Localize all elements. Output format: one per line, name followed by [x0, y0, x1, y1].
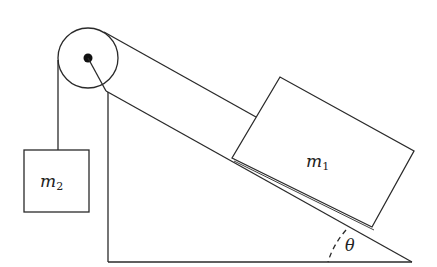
m2-label: m2 [40, 171, 63, 193]
theta-label: θ [345, 236, 355, 255]
block-m2: m2 [24, 150, 89, 212]
angle-marker: θ [328, 230, 355, 262]
incline-pulley-diagram: m1 m2 θ [0, 0, 437, 267]
rope-to-m1 [104, 32, 256, 117]
incline-triangle [106, 91, 412, 262]
pulley [58, 28, 118, 91]
incline-hypotenuse [106, 91, 412, 262]
block-m1: m1 [232, 77, 414, 230]
block-m1-contact-line [234, 161, 374, 230]
angle-arc-dashed [328, 230, 346, 262]
m1-label: m1 [306, 151, 329, 173]
